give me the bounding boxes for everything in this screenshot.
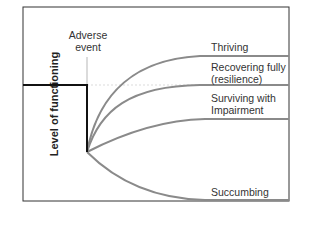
label-thriving: Thriving [211, 41, 248, 53]
label-surviving-line2: Impairment [211, 104, 276, 116]
label-surviving: Surviving with Impairment [211, 92, 276, 116]
adverse-event-label: Adverse event [68, 29, 108, 53]
label-surviving-line1: Surviving with [211, 92, 276, 104]
adverse-event-line1: Adverse [68, 29, 108, 41]
label-recovering-line2: (resilience) [211, 73, 286, 85]
label-recovering-line1: Recovering fully [211, 61, 286, 73]
curve-surviving [87, 119, 289, 152]
adverse-event-line2: event [68, 41, 108, 53]
y-axis-label: Level of functioning [48, 52, 60, 157]
label-recovering: Recovering fully (resilience) [211, 61, 286, 85]
label-succumbing: Succumbing [211, 186, 269, 198]
